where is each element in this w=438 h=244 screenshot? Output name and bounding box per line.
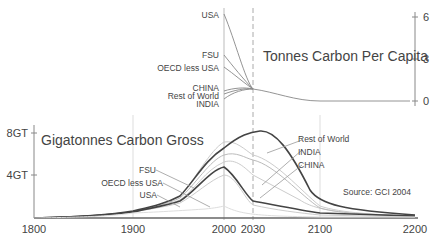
x-tick-2200: 2200 (403, 223, 427, 235)
label-fsu: FSU (202, 50, 219, 60)
x-tick-2000: 2000 (212, 223, 236, 235)
label-india-gross: INDIA (298, 147, 321, 157)
lower-tick-label-4gt: 4GT (7, 169, 29, 181)
upper-tick-label-0: 0 (423, 95, 429, 107)
label-oecd: OECD less USA (157, 63, 219, 73)
upper-chart-title: Tonnes Carbon Per Capita (263, 48, 428, 64)
x-tick-2100: 2100 (308, 223, 332, 235)
label-china-gross: CHINA (298, 160, 325, 170)
line-converged (253, 89, 410, 101)
line-india (224, 89, 253, 99)
x-tick-1900: 1900 (121, 223, 145, 235)
label-usa-gross: USA (140, 190, 158, 200)
upper-tick-label-6: 6 (423, 11, 429, 23)
label-india: INDIA (196, 99, 219, 109)
chart-canvas: 6 3 0 Tonnes Carbon Per Capita USA FSU O… (0, 0, 438, 244)
label-row-gross: Rest of World (298, 134, 350, 144)
line-fsu (224, 55, 253, 89)
source-note: Source: GCI 2004 (343, 187, 411, 197)
label-usa: USA (202, 10, 220, 20)
lower-tick-label-8gt: 8GT (7, 127, 29, 139)
x-tick-2030: 2030 (241, 223, 265, 235)
label-oecd-gross: OECD less USA (101, 178, 163, 188)
line-oecd (224, 67, 253, 89)
label-fsu-gross: FSU (139, 165, 156, 175)
x-tick-1800: 1800 (22, 223, 46, 235)
lower-chart-title: Gigatonnes Carbon Gross (41, 132, 204, 148)
